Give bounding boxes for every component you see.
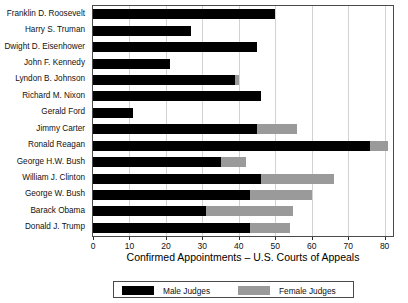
bar-row — [93, 190, 393, 200]
bar-segment-male — [93, 59, 170, 69]
bar-segment-male — [93, 9, 275, 19]
category-label: Jimmy Carter — [0, 124, 85, 134]
bar-segment-male — [93, 42, 257, 52]
x-tick-label: 20 — [151, 241, 181, 251]
bar-segment-male — [93, 141, 370, 151]
category-label: Gerald Ford — [0, 107, 85, 117]
bar-segment-male — [93, 223, 250, 233]
x-tick-mark — [348, 237, 349, 240]
category-label: Harry S. Truman — [0, 25, 85, 35]
bar-row — [93, 42, 393, 52]
legend-swatch-icon — [238, 286, 270, 295]
legend-entry[interactable]: Female Judges — [238, 285, 336, 296]
bar-segment-female — [250, 223, 290, 233]
x-tick-mark — [312, 237, 313, 240]
bar-row — [93, 91, 393, 101]
gridline — [239, 6, 240, 236]
bar-row — [93, 223, 393, 233]
x-tick-mark — [385, 237, 386, 240]
bar-row — [93, 9, 393, 19]
bar-segment-male — [93, 190, 250, 200]
bar-row — [93, 124, 393, 134]
x-tick-label: 50 — [260, 241, 290, 251]
bar-segment-female — [370, 141, 388, 151]
gridline — [312, 6, 313, 236]
bar-row — [93, 157, 393, 167]
bar-segment-male — [93, 124, 257, 134]
bar-segment-female — [261, 174, 334, 184]
x-tick-mark — [93, 237, 94, 240]
bar-segment-male — [93, 174, 261, 184]
bar-row — [93, 75, 393, 85]
category-label: John F. Kennedy — [0, 58, 85, 68]
bar-row — [93, 174, 393, 184]
bar-segment-male — [93, 75, 235, 85]
bar-segment-female — [257, 124, 297, 134]
bar-row — [93, 141, 393, 151]
bar-row — [93, 26, 393, 36]
chart-legend: Male JudgesFemale Judges — [113, 281, 354, 298]
gridline — [348, 6, 349, 236]
x-tick-label: 40 — [224, 241, 254, 251]
bar-segment-male — [93, 91, 261, 101]
gridline — [166, 6, 167, 236]
bar-segment-male — [93, 108, 133, 118]
bar-row — [93, 59, 393, 69]
bar-segment-female — [206, 206, 293, 216]
category-label: Dwight D. Eisenhower — [0, 42, 85, 52]
category-label: George H.W. Bush — [0, 157, 85, 167]
legend-label: Female Judges — [279, 286, 336, 296]
x-tick-mark — [275, 237, 276, 240]
bar-segment-male — [93, 157, 221, 167]
x-tick-mark — [202, 237, 203, 240]
x-tick-label: 80 — [370, 241, 400, 251]
gridline — [129, 6, 130, 236]
x-tick-label: 60 — [297, 241, 327, 251]
x-tick-label: 10 — [114, 241, 144, 251]
category-axis-labels: Franklin D. RooseveltHarry S. TrumanDwig… — [0, 5, 88, 237]
bar-row — [93, 206, 393, 216]
gridline — [202, 6, 203, 236]
bar-row — [93, 108, 393, 118]
x-tick-label: 30 — [187, 241, 217, 251]
gridline — [275, 6, 276, 236]
x-tick-mark — [166, 237, 167, 240]
x-tick-mark — [129, 237, 130, 240]
x-tick-label: 0 — [78, 241, 108, 251]
category-label: William J. Clinton — [0, 173, 85, 183]
legend-swatch-icon — [122, 286, 154, 295]
category-label: Franklin D. Roosevelt — [0, 9, 85, 19]
bar-segment-female — [221, 157, 247, 167]
x-tick-label: 70 — [333, 241, 363, 251]
category-label: George W. Bush — [0, 189, 85, 199]
legend-entry[interactable]: Male Judges — [122, 285, 210, 296]
x-axis-title: Confirmed Appointments – U.S. Courts of … — [92, 251, 394, 264]
category-label: Donald J. Trump — [0, 222, 85, 232]
gridline — [385, 6, 386, 236]
bar-segment-female — [250, 190, 312, 200]
category-label: Richard M. Nixon — [0, 91, 85, 101]
bar-segment-male — [93, 26, 191, 36]
bar-segment-female — [235, 75, 239, 85]
plot-area — [92, 5, 394, 237]
category-label: Lyndon B. Johnson — [0, 74, 85, 84]
x-tick-mark — [239, 237, 240, 240]
legend-label: Male Judges — [163, 286, 210, 296]
category-label: Ronald Reagan — [0, 140, 85, 150]
bar-segment-male — [93, 206, 206, 216]
bar-chart: Franklin D. RooseveltHarry S. TrumanDwig… — [0, 0, 408, 303]
category-label: Barack Obama — [0, 206, 85, 216]
